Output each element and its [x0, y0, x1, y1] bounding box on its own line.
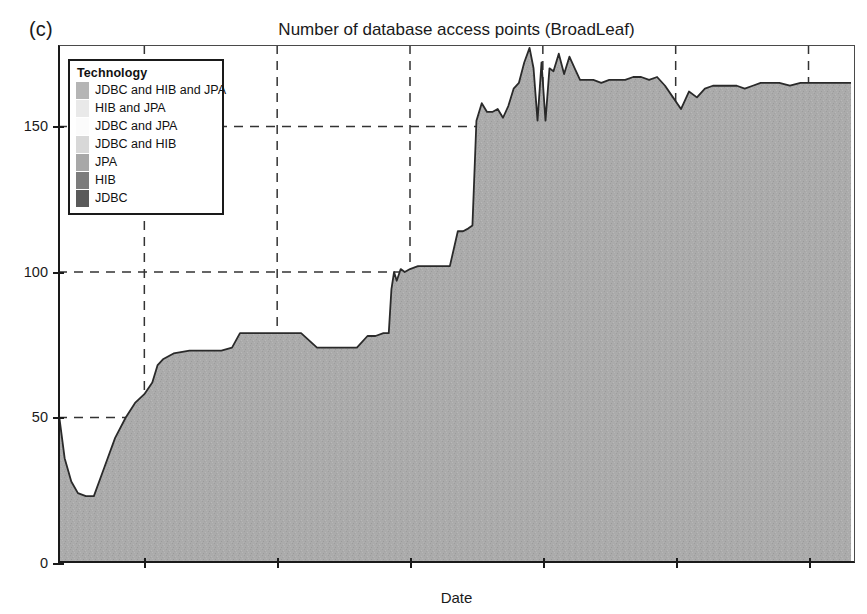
chart-title: Number of database access points (BroadL…	[58, 20, 855, 40]
legend-label: JDBC and HIB	[95, 137, 176, 151]
panel-label: (c)	[29, 18, 53, 41]
y-tick-label: 50	[0, 409, 48, 425]
y-tick-mark	[53, 272, 64, 274]
y-tick-mark	[53, 417, 64, 419]
legend-label: JDBC and HIB and JPA	[95, 83, 226, 97]
x-tick-mark	[277, 558, 279, 568]
legend-item: JDBC	[76, 189, 216, 207]
legend-item: JDBC and JPA	[76, 117, 216, 135]
legend-item: HIB and JPA	[76, 99, 216, 117]
legend-item: JDBC and HIB	[76, 135, 216, 153]
legend-swatch	[76, 136, 89, 153]
legend-swatch	[76, 118, 89, 135]
legend-swatch	[76, 172, 89, 189]
legend-label: HIB and JPA	[95, 101, 166, 115]
legend-title: Technology	[77, 66, 216, 80]
legend-swatch	[76, 82, 89, 99]
legend-label: HIB	[95, 173, 116, 187]
legend-label: JDBC	[95, 191, 128, 205]
legend-item: JDBC and HIB and JPA	[76, 81, 216, 99]
legend-label: JDBC and JPA	[95, 119, 177, 133]
legend-items: JDBC and HIB and JPAHIB and JPAJDBC and …	[76, 81, 216, 207]
legend: Technology JDBC and HIB and JPAHIB and J…	[68, 59, 224, 215]
legend-swatch	[76, 190, 89, 207]
y-tick-mark	[53, 563, 64, 565]
x-tick-mark	[676, 558, 678, 568]
y-tick-mark	[53, 126, 64, 128]
x-tick-mark	[543, 558, 545, 568]
y-tick-label: 150	[0, 118, 48, 134]
y-tick-label: 0	[0, 555, 48, 571]
legend-item: JPA	[76, 153, 216, 171]
legend-label: JPA	[95, 155, 117, 169]
x-axis-label: Date	[58, 589, 855, 606]
legend-swatch	[76, 100, 89, 117]
y-tick-label: 100	[0, 264, 48, 280]
figure-panel: (c) Number of database access points (Br…	[0, 0, 867, 614]
legend-item: HIB	[76, 171, 216, 189]
x-tick-mark	[410, 558, 412, 568]
x-tick-mark	[809, 558, 811, 568]
x-tick-mark	[144, 558, 146, 568]
legend-swatch	[76, 154, 89, 171]
